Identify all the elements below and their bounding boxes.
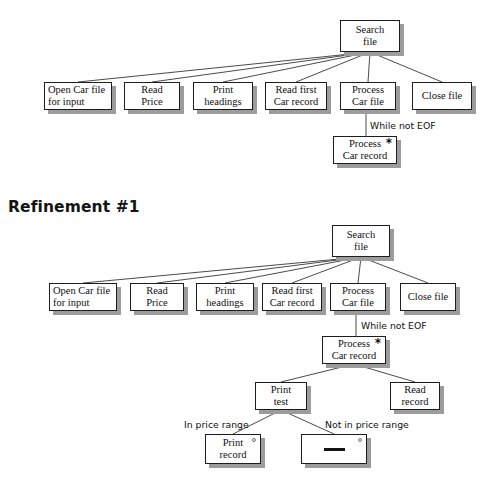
node-label-line: file — [363, 36, 377, 48]
node-read-price[interactable]: Read Price — [124, 82, 180, 110]
node-label-line: Print — [215, 285, 235, 297]
node-label-line: Car record — [274, 96, 319, 108]
node-label-line: for input — [48, 96, 84, 108]
node-label-line: for input — [53, 297, 89, 309]
node-print-record-selection[interactable]: Print record — [205, 434, 261, 464]
node-print-test[interactable]: Print test — [255, 382, 307, 410]
node-process-car-file[interactable]: Process Car file — [340, 82, 396, 110]
node-label-line: Price — [141, 96, 163, 108]
node-process-car-record-iteration-refined[interactable]: * Process Car record — [322, 336, 386, 364]
selection-circle-icon — [358, 438, 362, 442]
iteration-asterisk-icon: * — [375, 337, 381, 349]
node-label-line: Close file — [422, 90, 463, 102]
node-label-line: Search — [347, 229, 376, 241]
node-read-record[interactable]: Read record — [390, 382, 440, 410]
node-process-car-file-refined[interactable]: Process Car file — [330, 283, 386, 311]
loop-label-while-not-eof-refined: While not EOF — [361, 320, 427, 331]
node-label-line: Close file — [408, 291, 449, 303]
node-label-line: Search — [356, 24, 385, 36]
node-open-car-file-refined[interactable]: Open Car file for input — [49, 283, 117, 311]
node-label-line: Car file — [352, 96, 384, 108]
node-open-car-file[interactable]: Open Car file for input — [44, 82, 112, 110]
node-print-headings-refined[interactable]: Print headings — [196, 283, 254, 311]
node-label-line: Process — [338, 338, 370, 350]
node-label-line: Print — [223, 437, 243, 449]
node-search-file-root-refined[interactable]: Search file — [332, 225, 390, 257]
node-label-line: Car record — [332, 350, 377, 362]
node-label-line: Read — [404, 384, 426, 396]
node-label-line: Print — [271, 384, 291, 396]
node-label-line: headings — [204, 96, 241, 108]
node-label-line: Price — [146, 297, 168, 309]
node-label-line: headings — [206, 297, 243, 309]
node-label-line: Open Car file — [53, 285, 110, 297]
node-close-file[interactable]: Close file — [412, 82, 472, 110]
node-label-line: Process — [349, 138, 381, 150]
node-read-first-car-record-refined[interactable]: Read first Car record — [262, 283, 322, 311]
node-label-line: Process — [342, 285, 374, 297]
iteration-asterisk-icon: * — [386, 137, 392, 149]
node-label-line: Car record — [270, 297, 315, 309]
node-label-line: test — [274, 396, 289, 408]
node-label-line: Open Car file — [48, 84, 105, 96]
node-read-first-car-record[interactable]: Read first Car record — [265, 82, 327, 110]
node-null-action-selection[interactable] — [301, 434, 367, 464]
node-search-file-root[interactable]: Search file — [340, 20, 400, 52]
diagram-canvas: Refinement #1 Search file Open Car file … — [0, 0, 491, 488]
node-label-line: Read — [146, 285, 168, 297]
node-label-line: Car file — [342, 297, 374, 309]
condition-label-in-price-range: In price range — [184, 419, 249, 430]
node-label-line: Read first — [275, 84, 316, 96]
node-label-line: file — [354, 241, 368, 253]
condition-label-not-in-price-range: Not in price range — [325, 419, 409, 430]
null-action-dash-icon — [324, 448, 345, 451]
node-label-line: Read first — [271, 285, 312, 297]
node-label-line: record — [220, 449, 247, 461]
node-label-line: record — [402, 396, 429, 408]
connector-lines — [0, 0, 491, 488]
selection-circle-icon — [252, 438, 256, 442]
node-process-car-record-iteration[interactable]: * Process Car record — [333, 136, 397, 164]
node-label-line: Car record — [343, 150, 388, 162]
node-label-line: Process — [352, 84, 384, 96]
node-label-line: Read — [141, 84, 163, 96]
loop-label-while-not-eof: While not EOF — [370, 120, 436, 131]
node-read-price-refined[interactable]: Read Price — [130, 283, 184, 311]
node-label-line: Print — [213, 84, 233, 96]
node-print-headings[interactable]: Print headings — [193, 82, 253, 110]
node-close-file-refined[interactable]: Close file — [400, 283, 456, 311]
